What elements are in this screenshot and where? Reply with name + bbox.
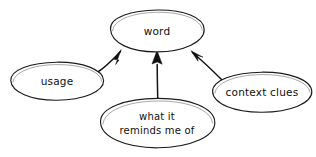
node-reminds-outline bbox=[100, 98, 214, 147]
node-reminds-label-line2: reminds me of bbox=[120, 125, 195, 136]
node-word-label: word bbox=[144, 25, 171, 37]
node-word[interactable]: word bbox=[110, 10, 204, 52]
node-context-label: context clues bbox=[226, 86, 299, 98]
edge-reminds-to-word bbox=[152, 51, 162, 100]
node-reminds[interactable]: what it reminds me of bbox=[100, 98, 214, 147]
node-context[interactable]: context clues bbox=[213, 72, 312, 112]
concept-map-svg: word usage what it reminds me of context… bbox=[0, 0, 316, 157]
edge-context-to-word bbox=[191, 51, 223, 81]
edge-usage-to-word bbox=[99, 50, 122, 72]
edge-reminds-to-word-arrowhead bbox=[152, 51, 162, 65]
concept-map-canvas: word usage what it reminds me of context… bbox=[0, 0, 316, 157]
edge-reminds-to-word-line bbox=[157, 65, 158, 100]
node-usage[interactable]: usage bbox=[11, 62, 104, 100]
node-usage-label: usage bbox=[41, 75, 74, 87]
node-reminds-label-line1: what it bbox=[139, 111, 175, 122]
